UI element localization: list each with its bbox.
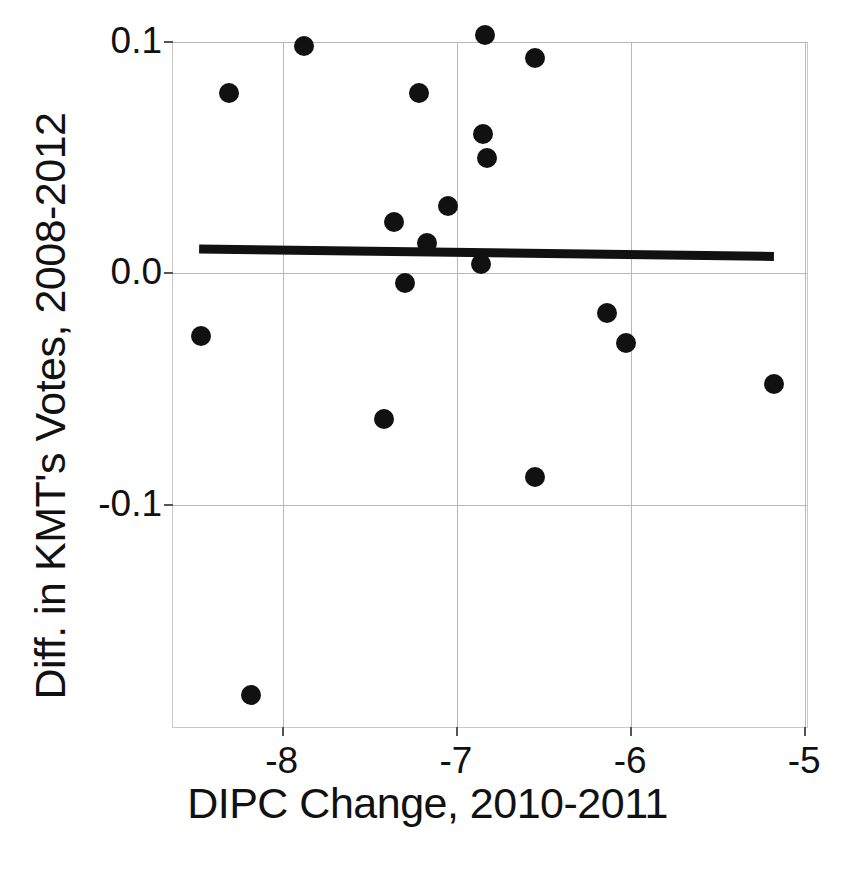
data-point <box>374 409 394 429</box>
data-point <box>764 374 784 394</box>
data-point <box>473 124 493 144</box>
y-axis-tick-label: 0.1 <box>111 20 162 62</box>
data-point <box>525 467 545 487</box>
data-point <box>191 326 211 346</box>
y-axis-tick-label: -0.1 <box>98 483 162 525</box>
data-point <box>475 25 495 45</box>
plot-area <box>172 42 808 728</box>
data-point <box>477 148 497 168</box>
data-point <box>219 83 239 103</box>
data-point <box>525 48 545 68</box>
data-point <box>384 212 404 232</box>
x-axis-tick-label: -8 <box>265 740 298 782</box>
data-point <box>438 196 458 216</box>
y-axis-tick <box>164 504 173 506</box>
y-axis-tick-labels: 0.10.0-0.1 <box>18 42 162 728</box>
data-point <box>409 83 429 103</box>
y-axis-tick <box>164 41 173 43</box>
data-point <box>294 36 314 56</box>
x-axis-title: DIPC Change, 2010-2011 <box>187 779 668 828</box>
data-point <box>471 254 491 274</box>
data-point <box>395 273 415 293</box>
scatter-plot-figure: Diff. in KMT's Votes, 2008-2012 0.10.0-0… <box>0 0 855 869</box>
y-axis-tick <box>164 272 173 274</box>
x-axis-title-container: DIPC Change, 2010-2011 <box>0 779 855 835</box>
data-point <box>417 233 437 253</box>
data-point <box>616 333 636 353</box>
x-axis-tick-label: -5 <box>788 740 821 782</box>
data-point <box>241 685 261 705</box>
x-axis-tick-label: -6 <box>614 740 647 782</box>
x-axis-tick-label: -7 <box>439 740 472 782</box>
data-point <box>597 303 617 323</box>
y-axis-tick-label: 0.0 <box>111 251 162 293</box>
